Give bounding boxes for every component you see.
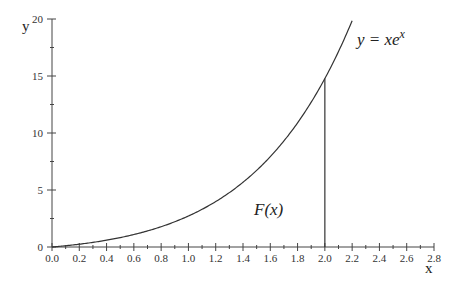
x-tick-label: 2.4 (373, 252, 387, 264)
x-tick-label: 0.0 (45, 252, 59, 264)
x-tick-label: 1.0 (182, 252, 196, 264)
y-tick-label: 15 (32, 70, 44, 82)
x-tick-label: 1.2 (209, 252, 223, 264)
chart: 0.00.20.40.60.81.01.21.41.61.82.02.22.42… (0, 0, 459, 289)
x-tick-label: 0.8 (154, 252, 168, 264)
x-tick-label: 0.4 (100, 252, 114, 264)
x-axis-label: x (425, 260, 433, 276)
curve-xex (52, 21, 352, 247)
y-tick-label: 5 (38, 184, 44, 196)
x-tick-label: 1.6 (263, 252, 277, 264)
curve-label-main: y = xe (355, 30, 400, 49)
x-tick-label: 0.2 (72, 252, 86, 264)
y-tick-label: 0 (38, 241, 44, 253)
x-tick-label: 0.6 (127, 252, 141, 264)
x-tick-label: 1.8 (291, 252, 305, 264)
x-tick-label: 2.0 (318, 252, 332, 264)
x-tick-label: 1.4 (236, 252, 250, 264)
y-axis-label: y (22, 18, 30, 34)
curve-label-superscript: x (399, 27, 406, 41)
y-tick-label: 20 (32, 13, 44, 25)
area-label: F(x) (253, 200, 284, 219)
curve-label: y = xex (355, 27, 406, 49)
x-tick-label: 2.2 (345, 252, 359, 264)
x-tick-label: 2.6 (400, 252, 414, 264)
y-tick-label: 10 (32, 127, 44, 139)
axes: 0.00.20.40.60.81.01.21.41.61.82.02.22.42… (32, 13, 441, 264)
